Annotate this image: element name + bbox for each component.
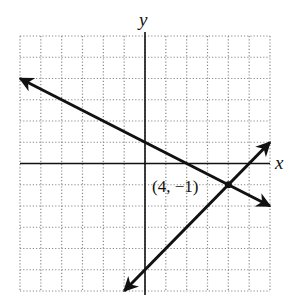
- intersection-label: (4, −1): [152, 177, 198, 196]
- intersection-point: [225, 181, 232, 188]
- line-2: [124, 142, 270, 291]
- axes: [20, 32, 270, 295]
- coordinate-graph: y x (4, −1): [0, 0, 297, 306]
- y-axis-label: y: [137, 9, 148, 30]
- x-axis-label: x: [274, 152, 284, 173]
